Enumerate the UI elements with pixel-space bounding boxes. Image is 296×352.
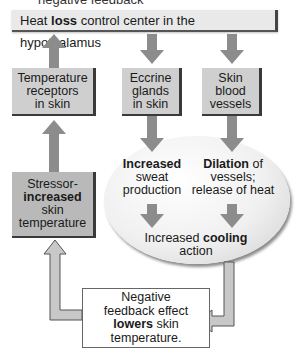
arrow-down-vessels-to-dilation-icon — [220, 116, 244, 152]
text-rest: of — [249, 157, 263, 171]
text-line: temperature. — [83, 332, 209, 346]
arrow-down-dilation-to-cooling-icon — [220, 204, 244, 228]
text-pre: Increased — [145, 231, 203, 245]
text-line: feedback effect — [83, 305, 209, 319]
stressor-increased-box: Stressor- increased skin temperature — [12, 172, 96, 238]
text-bold: cooling — [203, 231, 247, 245]
text-line: action — [136, 245, 256, 258]
cooling-action-text: Increased cooling action — [136, 232, 256, 258]
box-line-bold: increased — [23, 190, 81, 204]
text-line: production — [118, 184, 186, 197]
text-rest: skin — [153, 317, 179, 331]
text-bold: Increased — [123, 157, 181, 171]
arrow-feedback-to-stressor-icon — [44, 240, 82, 320]
text-line: Negative — [83, 291, 209, 305]
negative-feedback-box: Negative feedback effect lowers skin tem… — [82, 288, 210, 348]
text-bold: Dilation — [203, 157, 249, 171]
box-line: temperature — [12, 217, 93, 230]
sweat-production-text: Increased sweat production — [118, 158, 186, 197]
text-line: release of heat — [186, 184, 280, 197]
dilation-text: Dilation of vessels; release of heat — [186, 158, 280, 197]
text-bold: lowers — [113, 317, 153, 331]
arrow-down-sweat-to-cooling-icon — [140, 204, 164, 228]
arrow-down-eccrine-to-sweat-icon — [140, 116, 164, 152]
